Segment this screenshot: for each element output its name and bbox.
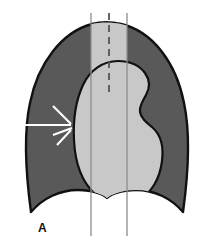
cardiac-silhouette-region — [74, 61, 163, 204]
chest-schematic-illustration — [0, 0, 214, 251]
cardiac-silhouette-outline — [74, 61, 163, 204]
panel-label: A — [38, 222, 47, 234]
figure-panel: A — [0, 0, 214, 251]
